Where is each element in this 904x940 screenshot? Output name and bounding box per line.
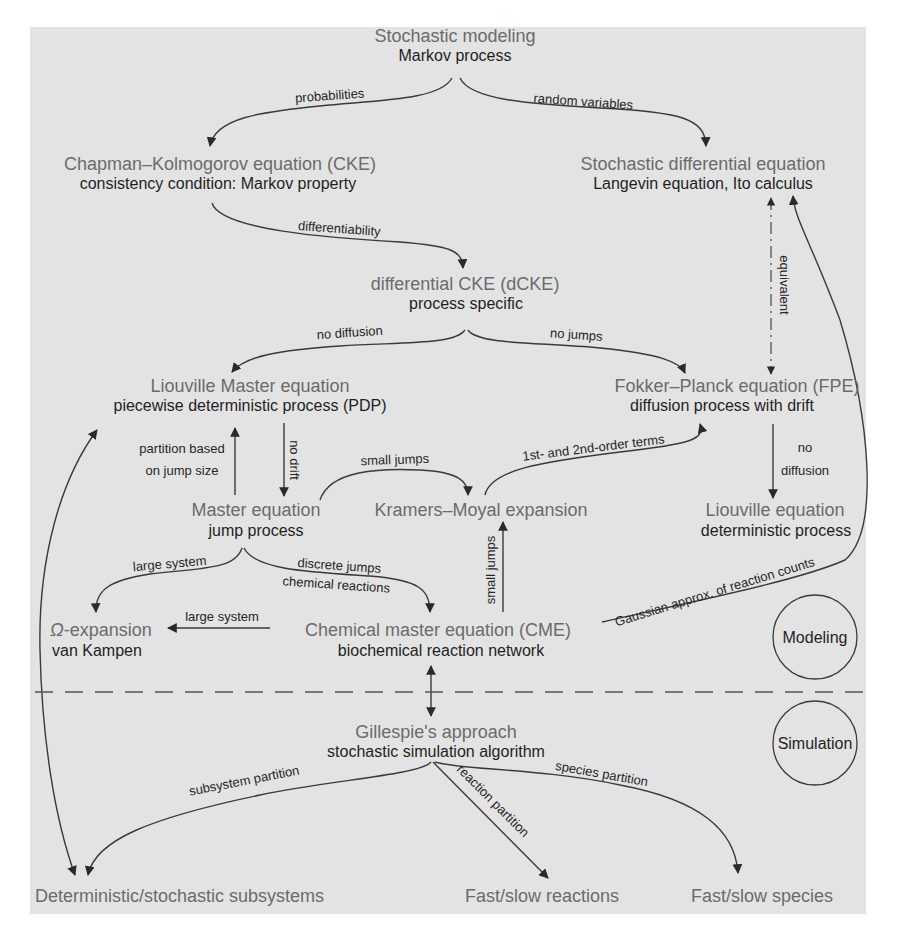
edge-label-reaction-partition: reaction partition xyxy=(454,762,533,841)
edge-label-no-diffusion: no diffusion xyxy=(316,323,383,343)
region-simulation: Simulation xyxy=(773,701,857,785)
node-title: Gillespie's approach xyxy=(355,722,517,742)
node-master: Master equation jump process xyxy=(191,500,320,540)
node-liouville-master: Liouville Master equation piecewise dete… xyxy=(114,376,387,415)
stochastic-modeling-diagram: Stochastic modeling Markov process Chapm… xyxy=(0,0,904,940)
node-title: Fast/slow reactions xyxy=(465,886,619,906)
edge-label-gaussian-approx: Gaussian approx. of reaction counts xyxy=(613,554,817,629)
node-det-stoch-subsystems: Deterministic/stochastic subsystems xyxy=(35,886,324,906)
node-subtitle: consistency condition: Markov property xyxy=(80,175,357,192)
edge-random-variables xyxy=(460,78,706,146)
edge-label-small-jumps-vertical: small jumps xyxy=(483,535,498,604)
edge-label-no-jumps: no jumps xyxy=(549,325,603,344)
edge-label-subsystem-partition: subsystem partition xyxy=(188,763,301,799)
node-title: Chemical master equation (CME) xyxy=(305,620,571,640)
node-subtitle: Markov process xyxy=(399,47,512,64)
node-title: Fast/slow species xyxy=(691,886,833,906)
edge-first-second-order xyxy=(485,424,701,495)
node-subtitle: deterministic process xyxy=(701,522,851,539)
node-subtitle: Langevin equation, Ito calculus xyxy=(593,175,813,192)
edge-label-first-second-order: 1st- and 2nd-order terms xyxy=(522,431,666,463)
node-cke: Chapman–Kolmogorov equation (CKE) consis… xyxy=(64,154,376,193)
edge-label-partition-line1: partition based xyxy=(139,441,224,456)
node-title: Chapman–Kolmogorov equation (CKE) xyxy=(64,154,376,174)
region-label-simulation: Simulation xyxy=(778,735,853,752)
node-title: Ω-expansion xyxy=(50,620,152,640)
edge-label-partition-line2: on jump size xyxy=(146,463,219,478)
edge-reaction-partition xyxy=(433,762,548,878)
edge-label-small-jumps: small jumps xyxy=(360,451,430,468)
edge-label-differentiability: differentiability xyxy=(297,218,381,239)
edge-label-discrete-jumps: discrete jumps xyxy=(297,555,382,576)
edge-label-random-variables: random variables xyxy=(533,91,634,113)
node-subtitle: diffusion process with drift xyxy=(630,397,814,414)
node-subtitle: process specific xyxy=(409,295,523,312)
edge-label-large-system-cme: large system xyxy=(185,609,259,624)
edge-label-species-partition: species partition xyxy=(554,758,649,789)
node-title: Stochastic modeling xyxy=(374,26,535,46)
node-fpe: Fokker–Planck equation (FPE) diffusion p… xyxy=(614,376,859,415)
node-fast-slow-reactions: Fast/slow reactions xyxy=(465,886,619,906)
node-stochastic-modeling: Stochastic modeling Markov process xyxy=(374,26,535,65)
node-liouville: Liouville equation deterministic process xyxy=(701,500,851,540)
omega-symbol: Ω xyxy=(50,620,64,640)
edge-label-equivalent: equivalent xyxy=(777,255,792,315)
node-subtitle: stochastic simulation algorithm xyxy=(327,743,545,760)
node-dcke: differential CKE (dCKE) process specific xyxy=(371,274,560,313)
edge-label-no-diffusion-right-1: no xyxy=(798,440,812,455)
node-omega-expansion: Ω-expansion van Kampen xyxy=(50,620,152,660)
node-title: Liouville Master equation xyxy=(150,376,349,396)
node-title: Master equation xyxy=(191,500,320,520)
edge-label-large-system-top: large system xyxy=(132,553,207,574)
node-gillespie: Gillespie's approach stochastic simulati… xyxy=(327,722,545,761)
node-kramers-moyal: Kramers–Moyal expansion xyxy=(374,500,587,520)
node-cme: Chemical master equation (CME) biochemic… xyxy=(305,620,571,660)
omega-title-rest: -expansion xyxy=(64,620,152,640)
node-subtitle: piecewise deterministic process (PDP) xyxy=(114,397,387,414)
node-subtitle: van Kampen xyxy=(52,642,142,659)
region-modeling: Modeling xyxy=(773,595,857,679)
node-title: Stochastic differential equation xyxy=(581,154,826,174)
node-title: Fokker–Planck equation (FPE) xyxy=(614,376,859,396)
edge-label-no-drift: no drift xyxy=(287,440,302,480)
edge-label-no-diffusion-right-2: diffusion xyxy=(781,463,829,478)
node-title: Kramers–Moyal expansion xyxy=(374,500,587,520)
node-subtitle: jump process xyxy=(207,522,303,539)
node-sde: Stochastic differential equation Langevi… xyxy=(581,154,826,193)
node-title: Deterministic/stochastic subsystems xyxy=(35,886,324,906)
node-subtitle: biochemical reaction network xyxy=(338,642,545,659)
edge-small-jumps-top xyxy=(320,469,468,500)
node-fast-slow-species: Fast/slow species xyxy=(691,886,833,906)
node-title: Liouville equation xyxy=(705,500,844,520)
region-label-modeling: Modeling xyxy=(783,629,848,646)
node-title: differential CKE (dCKE) xyxy=(371,274,560,294)
